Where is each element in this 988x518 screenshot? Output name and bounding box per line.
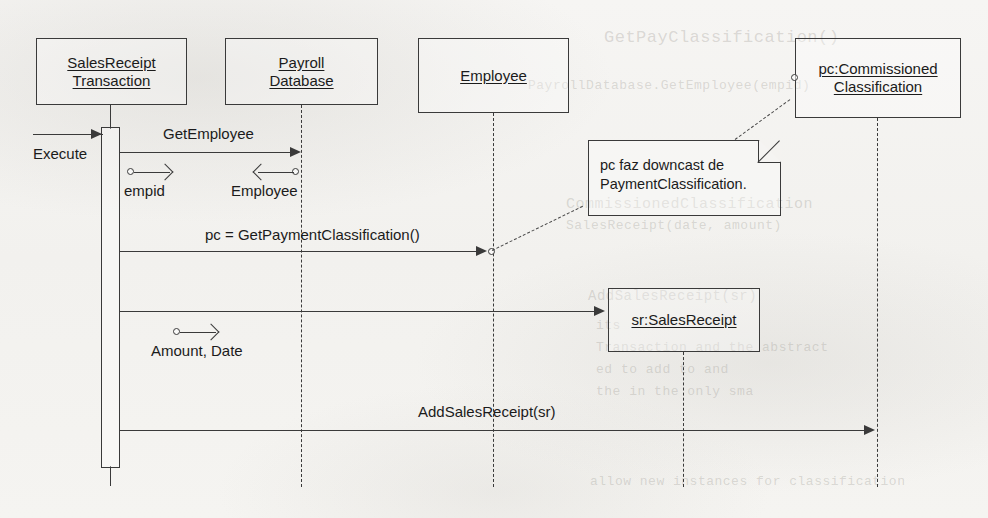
param-arrowhead-amount-date (203, 324, 220, 341)
param-label-amount-date: Amount, Date (151, 342, 243, 359)
param-label-employee-return: Employee (231, 182, 298, 199)
ghost-text-line-9: the in the only sma (596, 384, 754, 399)
lifeline-pc-commissioned-classification (877, 118, 878, 487)
participant-label-line-2: Transaction (73, 72, 151, 89)
arrowhead-get-employee (290, 147, 301, 157)
lifeline-salesreceipt-transaction-tail (110, 466, 111, 486)
ghost-text-line-10: allow new instances for classification (590, 474, 905, 489)
message-line-create-sales-receipt (120, 311, 599, 312)
note-anchor-to-pc-classification (735, 99, 791, 140)
message-label-add-sales-receipt: AddSalesReceipt(sr) (418, 403, 556, 420)
arrowhead-add-sales-receipt (864, 425, 875, 435)
participant-employee-label: Employee (460, 67, 527, 85)
param-dot-empid (127, 168, 134, 175)
param-arrowhead-empid (157, 164, 174, 181)
participant-label-line-2: Classification (834, 78, 922, 95)
participant-salesreceipt-transaction[interactable]: SalesReceipt Transaction (36, 38, 187, 105)
participant-label-line-1: Employee (460, 67, 527, 84)
note-anchor-to-return-dot (492, 206, 583, 251)
participant-salesreceipt-transaction-label: SalesReceipt Transaction (67, 54, 155, 90)
param-label-empid: empid (124, 182, 165, 199)
participant-pc-commissioned-classification[interactable]: pc:Commissioned Classification (795, 38, 961, 118)
ghost-text-line-8: ed to add to and (596, 362, 729, 377)
message-label-execute: Execute (33, 145, 87, 162)
participant-payroll-database[interactable]: Payroll Database (225, 38, 378, 105)
arrowhead-create-sales-receipt (594, 306, 605, 316)
message-line-get-employee (120, 152, 292, 153)
param-dot-amount-date (173, 328, 180, 335)
participant-payroll-database-label: Payroll Database (269, 54, 333, 90)
ghost-text-line-2: PayrollDatabase.GetEmployee(empid) (528, 78, 810, 93)
lifeline-sr-salesreceipt (683, 352, 684, 487)
participant-pc-commissioned-classification-label: pc:Commissioned Classification (818, 60, 937, 96)
participant-label-line-1: Payroll (279, 54, 325, 71)
param-arrowhead-employee-return (253, 164, 270, 181)
downcast-note: pc faz downcast de PaymentClassification… (588, 140, 781, 216)
note-text: pc faz downcast de PaymentClassification… (600, 156, 771, 194)
participant-label-line-1: sr:SalesReceipt (631, 311, 736, 328)
message-label-get-employee: GetEmployee (163, 125, 254, 142)
arrowhead-execute (91, 129, 102, 139)
message-line-get-payment-classification (120, 251, 485, 252)
participant-label-line-1: pc:Commissioned (818, 60, 937, 77)
participant-sr-salesreceipt-label: sr:SalesReceipt (631, 311, 736, 329)
message-line-add-sales-receipt (120, 430, 868, 431)
note-anchor-dot-pc-classification (791, 74, 798, 81)
sequence-diagram-canvas: GetPayClassification() PayrollDatabase.G… (0, 0, 988, 518)
arrowhead-get-payment-classification (476, 246, 487, 256)
participant-label-line-2: Database (269, 72, 333, 89)
lifeline-salesreceipt-transaction-head (110, 105, 111, 129)
participant-sr-salesreceipt[interactable]: sr:SalesReceipt (608, 288, 760, 352)
message-label-get-payment-classification: pc = GetPaymentClassification() (205, 226, 420, 243)
activation-bar-salesreceipt-transaction (101, 127, 120, 468)
ghost-text-line-4: SalesReceipt(date, amount) (566, 218, 782, 233)
participant-label-line-1: SalesReceipt (67, 54, 155, 71)
participant-employee[interactable]: Employee (418, 38, 569, 113)
